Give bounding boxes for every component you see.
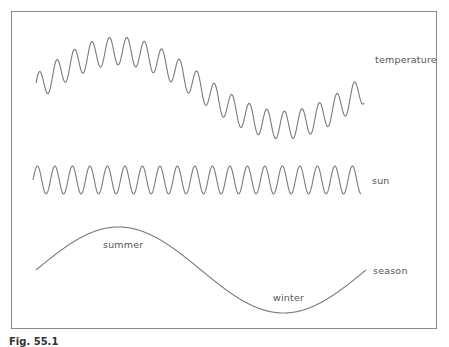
summer-annotation: summer: [103, 239, 143, 250]
sun-label: sun: [372, 175, 390, 186]
season-curve: [36, 227, 366, 313]
season-label: season: [373, 265, 408, 276]
temperature-curve: [36, 38, 364, 139]
sun-curve: [33, 166, 361, 194]
winter-annotation: winter: [273, 292, 304, 303]
figure-caption: Fig. 55.1: [9, 336, 58, 347]
temperature-label: temperature: [375, 54, 437, 65]
